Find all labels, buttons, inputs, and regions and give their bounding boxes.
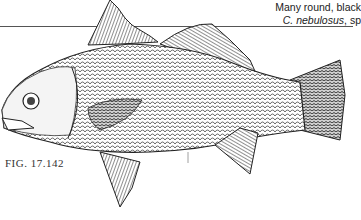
pelvic-fin: [100, 152, 140, 207]
figure-label: FIG. 17.142: [5, 157, 64, 169]
dorsal-fin-spiny: [88, 0, 158, 45]
